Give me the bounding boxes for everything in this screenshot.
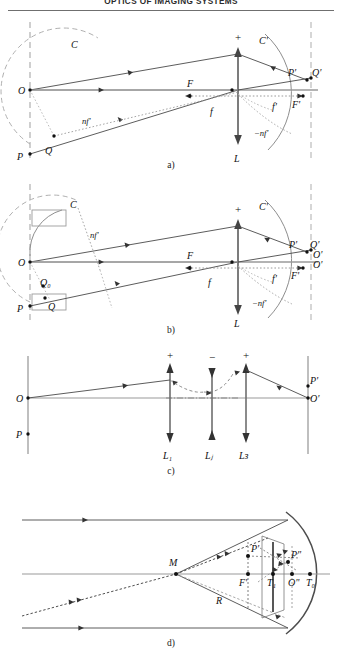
- label-minus-nf-prime: −nf': [254, 128, 268, 138]
- point-F-prime: [246, 572, 250, 576]
- label-O: O: [18, 257, 25, 268]
- ray-O-to-lens-top: [30, 226, 238, 262]
- label-nf-prime: nf': [82, 116, 91, 126]
- label-O-prime-lower: O': [313, 259, 323, 270]
- ray-lens-center-to-Q-prime: [238, 250, 311, 262]
- label-lens-sign-plus: +: [235, 31, 241, 43]
- point-P-prime: [305, 78, 308, 81]
- label-T1: T₁: [267, 577, 276, 588]
- label-P: P: [15, 429, 22, 440]
- label-f: f: [208, 277, 212, 288]
- point-F: [188, 94, 191, 97]
- label-LJ: Lᴈ: [238, 450, 249, 461]
- point-Q: [52, 134, 55, 137]
- label-f-prime: f': [272, 273, 278, 284]
- header-rule: [8, 10, 334, 11]
- label-L1: L₁: [162, 450, 172, 461]
- lens-LJ-arrow-bottom: [242, 433, 249, 443]
- arc-left-solid: [30, 210, 62, 256]
- label-F-prime: F': [290, 270, 300, 281]
- lens-L-arrow-top: [234, 47, 242, 57]
- label-C: C: [71, 39, 78, 50]
- label-C: C: [70, 199, 77, 210]
- lens-Lj-arrow-bottom: [208, 430, 215, 440]
- ray-arrowhead: [225, 551, 230, 556]
- ray-lens-center-to-Q-prime: [238, 78, 311, 90]
- ray-Lj-to-LJ-dashed: [204, 372, 234, 392]
- label-P-prime: P': [287, 67, 297, 78]
- ray-arrowhead: [235, 371, 241, 376]
- panel-b: O P Q Q₀ C C' F f nf' + L P' Q' O' O' f'…: [0, 178, 342, 328]
- point-P: [28, 152, 31, 155]
- caption-a: a): [0, 160, 342, 170]
- ray-upper-reflected: [176, 520, 288, 574]
- label-lens-sign-plus: +: [235, 203, 241, 215]
- ray-arrowhead: [270, 66, 276, 71]
- label-Q: Q: [45, 145, 53, 156]
- ray-arrowhead: [128, 70, 134, 76]
- label-nf-prime: nf': [90, 230, 99, 240]
- ray-arrowhead: [78, 626, 84, 631]
- ray-arrowhead: [206, 391, 212, 396]
- point-P: [28, 304, 31, 307]
- caption-b: b): [0, 325, 342, 335]
- ray-arrowhead: [99, 260, 104, 265]
- ray-arrowhead: [99, 88, 104, 93]
- lens-L-arrow-bottom: [234, 305, 242, 315]
- label-P-prime: P': [250, 543, 260, 554]
- label-F-prime: F': [291, 99, 301, 110]
- caption-c: c): [0, 466, 342, 476]
- ray-arrowhead: [125, 243, 131, 249]
- running-head: OPTICS OF IMAGING SYSTEMS: [0, 0, 342, 6]
- point-O-double-prime: [290, 572, 294, 576]
- point-T0: [308, 572, 312, 576]
- point-O: [26, 396, 29, 399]
- lens-L1-arrow-top: [166, 363, 173, 373]
- point-M: [174, 572, 178, 576]
- point-node: [230, 260, 233, 263]
- label-Q-prime: Q': [312, 67, 322, 78]
- label-Lj-sign: −: [209, 351, 215, 363]
- label-C-prime: C': [259, 201, 269, 212]
- arc-C-prime: [265, 200, 292, 318]
- ray-arrowhead: [69, 600, 74, 605]
- label-P-double-prime: P": [290, 549, 302, 560]
- label-f-prime: f': [272, 101, 278, 112]
- point-P-double-prime: [286, 560, 290, 564]
- label-M: M: [168, 557, 178, 568]
- label-F: F: [186, 250, 194, 261]
- ray-LJ-to-image: [246, 370, 308, 398]
- label-F-prime: F': [238, 577, 248, 588]
- point-P: [26, 432, 29, 435]
- label-F: F: [186, 78, 194, 89]
- ray-P-to-lens-center: [30, 90, 238, 154]
- ray-arrowhead: [118, 117, 123, 122]
- ray-arrowhead: [282, 550, 288, 555]
- lens-L-arrow-top: [234, 219, 242, 229]
- panel-c: O P O' P' + − + L₁ Lⱼ Lᴈ: [0, 342, 342, 464]
- arc-C-prime: [265, 34, 291, 150]
- ray-P-to-lens-center: [30, 262, 238, 306]
- ray-O-to-lens-top: [30, 54, 238, 90]
- label-R: R: [215, 595, 222, 606]
- lens-L1-arrow-bottom: [166, 433, 173, 443]
- lens-L-arrow-bottom: [234, 135, 242, 145]
- ray-arrowhead: [115, 281, 120, 286]
- label-C-prime: C': [259, 35, 269, 46]
- figure-page: OPTICS OF IMAGING SYSTEMS: [0, 0, 342, 656]
- label-O-double-prime: O": [288, 577, 300, 588]
- lens-Lj-arrow-top: [208, 368, 215, 378]
- label-LJ-sign: +: [243, 349, 249, 361]
- panel-d: M R F' P' P" T₁ O" T₀: [0, 486, 342, 644]
- label-P: P: [16, 303, 23, 314]
- point-T1: [271, 572, 275, 576]
- label-minus-nf-prime: −nf': [252, 298, 266, 308]
- point-F: [188, 266, 191, 269]
- label-Lj: Lⱼ: [204, 450, 214, 461]
- arc-C-dashed: [0, 195, 76, 302]
- label-f: f: [210, 106, 214, 117]
- nf-prime-dotted-2: [30, 90, 54, 136]
- ray-arrowhead: [264, 238, 270, 243]
- arc-C-dashed: [1, 28, 98, 144]
- point-F-prime: [301, 94, 304, 97]
